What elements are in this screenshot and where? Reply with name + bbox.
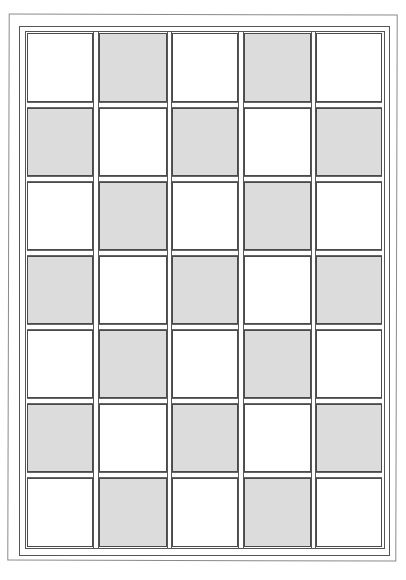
grid-cell-filled [99, 478, 167, 547]
grid-cell-filled [244, 478, 311, 547]
grid-cell-filled [316, 108, 382, 176]
grid-cell-filled [316, 404, 382, 472]
grid-cell-empty [27, 478, 93, 547]
grid-cell-empty [99, 108, 167, 176]
grid-cell-filled [172, 108, 238, 176]
grid-cell-empty [172, 330, 238, 398]
grid-cell-filled [316, 256, 382, 324]
grid-cell-empty [99, 256, 167, 324]
grid-cell-empty [244, 404, 311, 472]
grid-cell-empty [27, 33, 93, 102]
grid-cell-empty [172, 33, 238, 102]
grid-cell-empty [27, 330, 93, 398]
grid-cell-empty [27, 182, 93, 250]
grid-cell-filled [99, 33, 167, 102]
grid-cell-filled [172, 256, 238, 324]
grid-cell-empty [316, 33, 382, 102]
grid-cell-empty [99, 404, 167, 472]
grid-cell-filled [27, 256, 93, 324]
grid-cell-filled [244, 182, 311, 250]
grid-cell-filled [99, 330, 167, 398]
grid-cell-filled [27, 404, 93, 472]
grid-cell-filled [99, 182, 167, 250]
grid-cell-empty [172, 182, 238, 250]
grid-cell-empty [316, 478, 382, 547]
grid-cell-filled [244, 33, 311, 102]
grid-cell-filled [172, 404, 238, 472]
grid-cell-empty [316, 182, 382, 250]
grid-cell-empty [316, 330, 382, 398]
grid-cell-empty [244, 256, 311, 324]
grid-cell-empty [172, 478, 238, 547]
grid-cell-filled [244, 330, 311, 398]
grid-cell-empty [244, 108, 311, 176]
grid-cell-filled [27, 108, 93, 176]
